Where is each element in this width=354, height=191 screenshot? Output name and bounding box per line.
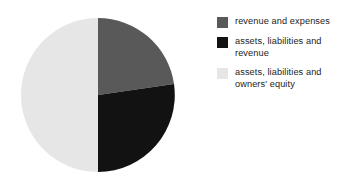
pie-slice-revenue-and-expenses	[98, 18, 174, 95]
legend-swatch-icon	[217, 37, 228, 48]
legend-swatch-icon	[217, 68, 228, 79]
pie-slice-assets-liabilities-and-revenue	[98, 84, 175, 172]
chart-legend: revenue and expenses assets, liabilities…	[217, 16, 354, 98]
pie-slices	[21, 18, 175, 172]
legend-item-revenue-and-expenses: revenue and expenses	[217, 16, 354, 28]
legend-item-label: assets, liabilities and owners' equity	[235, 67, 347, 90]
legend-item-assets-liabilities-and-owners-equity: assets, liabilities and owners' equity	[217, 67, 354, 90]
pie-chart	[20, 16, 176, 174]
legend-item-label: revenue and expenses	[235, 16, 330, 28]
legend-swatch-icon	[217, 17, 228, 28]
legend-item-assets-liabilities-and-revenue: assets, liabilities and revenue	[217, 36, 354, 59]
pie-slice-assets-liabilities-and-owners-equity	[21, 18, 98, 172]
pie-chart-figure: revenue and expenses assets, liabilities…	[0, 0, 354, 191]
legend-item-label: assets, liabilities and revenue	[235, 36, 347, 59]
